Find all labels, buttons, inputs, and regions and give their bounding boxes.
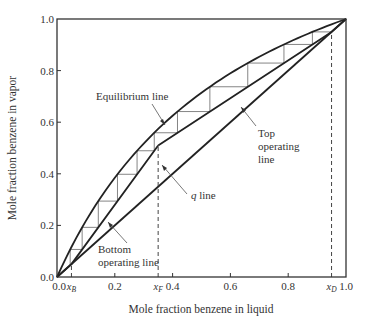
y-tick-label: 0.0: [40, 271, 54, 283]
x-tick-label: 0.4: [166, 280, 180, 292]
top-operating-line-label-1: Top: [258, 127, 275, 139]
x-tick-label: 0.2: [108, 280, 122, 292]
y-axis-label: Mole fraction benzene in vapor: [6, 76, 19, 220]
x-special-tick-label: xB: [66, 281, 77, 294]
y-tick-label: 0.6: [40, 116, 54, 128]
x-special-tick-label: xD: [326, 281, 338, 294]
bottom-operating-line-label-2: operating line: [98, 256, 159, 268]
q-line-label: q line: [191, 189, 216, 201]
x-axis-label: Mole fraction benzene in liquid: [129, 303, 274, 316]
x-tick-label: 0.8: [281, 280, 295, 292]
diagonal-q-line: [57, 19, 346, 277]
top-operating-line-label-3: line: [258, 153, 275, 165]
y-tick-label: 0.2: [40, 219, 54, 231]
x-tick-label: 1.0: [339, 280, 353, 292]
x-tick-label: 0.6: [224, 280, 238, 292]
y-tick-label: 0.8: [40, 65, 54, 77]
top-operating-line: [158, 19, 346, 145]
bottom-operating-line-label-1: Bottom: [98, 243, 131, 255]
composition-marker-lines: [71, 32, 331, 277]
x-special-tick-label: xF: [153, 281, 164, 294]
x-tick-label: 0.0: [52, 280, 66, 292]
equilibrium-line-label: Equilibrium line: [96, 90, 169, 102]
mccabe-thiele-diagram: 0.00.20.40.60.81.00.00.20.40.60.81.0xBxF…: [0, 0, 372, 323]
y-tick-label: 0.4: [40, 168, 54, 180]
y-tick-label: 1.0: [40, 13, 54, 25]
top-operating-line-label-2: operating: [258, 140, 300, 152]
curves: [57, 19, 346, 277]
